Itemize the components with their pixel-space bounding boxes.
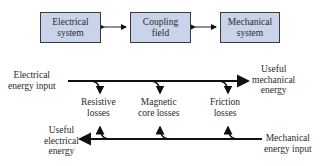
useful-mechanical-energy-label: Usefulmechanicalenergy [252,64,295,96]
block-label: Coupling [143,17,178,27]
useful-electrical-energy-label: Usefulelectricalenergy [44,125,79,157]
mechanical-system-block: Mechanicalsystem [220,12,280,43]
mechanical-energy-input-label: Mechanicalenergy input [264,133,312,154]
electrical-system-block: Electricalsystem [40,12,101,43]
coupling-field-block: Couplingfield [130,12,191,43]
block-label: field [152,28,169,38]
magnetic-core-losses-label: Magneticcore losses [138,97,179,118]
block-label: Mechanical [228,17,272,27]
block-label: Electrical [52,17,88,27]
resistive-losses-label: Resistivelosses [81,97,116,118]
electrical-energy-input-label: Electricalenergy input [8,70,56,91]
friction-losses-label: Frictionlosses [210,97,240,118]
block-label: system [237,28,263,38]
block-label: system [57,28,83,38]
